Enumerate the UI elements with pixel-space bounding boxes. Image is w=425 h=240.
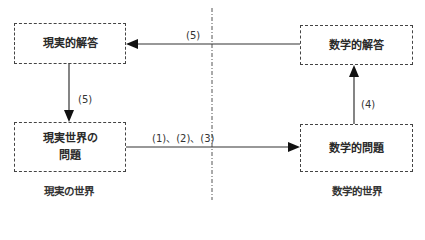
box-math-solution: 数学的解答 bbox=[300, 25, 413, 65]
label-right-arrow: (4) bbox=[361, 99, 375, 110]
box-math-problem: 数学的問題 bbox=[300, 124, 413, 172]
box-math-problem-text: 数学的問題 bbox=[329, 140, 384, 157]
label-left-arrow: (5) bbox=[78, 94, 92, 105]
arrowhead-down-icon bbox=[64, 110, 74, 122]
arrowhead-left-icon bbox=[126, 39, 138, 49]
arrowhead-up-icon bbox=[349, 65, 359, 77]
box-math-solution-text: 数学的解答 bbox=[329, 37, 384, 54]
box-real-problem-line2: 問題 bbox=[59, 147, 81, 164]
box-real-problem-line1: 現実世界の bbox=[43, 130, 98, 147]
label-real-world: 現実の世界 bbox=[44, 183, 94, 198]
box-real-solution: 現実的解答 bbox=[14, 23, 126, 64]
label-top-arrow: (5) bbox=[186, 30, 200, 41]
arrowhead-right-icon bbox=[288, 142, 300, 152]
box-real-problem: 現実世界の 問題 bbox=[14, 122, 126, 172]
label-math-world: 数学的世界 bbox=[332, 183, 382, 198]
label-bottom-arrow: (1)、(2)、(3) bbox=[152, 130, 215, 145]
box-real-solution-text: 現実的解答 bbox=[43, 35, 98, 52]
